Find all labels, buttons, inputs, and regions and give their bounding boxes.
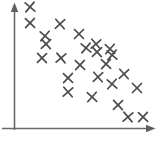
data-point xyxy=(93,72,102,81)
x-axis xyxy=(2,125,156,132)
data-point xyxy=(87,92,96,101)
data-point xyxy=(81,43,91,53)
data-point xyxy=(119,69,128,78)
data-point xyxy=(92,47,101,56)
data-point xyxy=(25,18,34,27)
data-point-group xyxy=(25,2,148,122)
data-point xyxy=(37,53,46,62)
data-point xyxy=(25,2,35,12)
data-point xyxy=(107,79,117,89)
data-point xyxy=(75,30,84,39)
data-point xyxy=(55,19,64,28)
y-axis xyxy=(11,3,18,131)
data-point xyxy=(138,112,147,121)
data-point xyxy=(63,87,73,97)
scatter-plot-figure xyxy=(0,0,166,143)
data-point xyxy=(113,100,122,109)
data-point xyxy=(101,59,110,68)
data-point xyxy=(56,53,66,63)
data-point xyxy=(123,112,133,122)
plot-canvas xyxy=(0,0,166,143)
data-point xyxy=(41,39,50,48)
data-point xyxy=(133,84,142,93)
data-point xyxy=(63,73,72,82)
data-point xyxy=(75,60,84,69)
